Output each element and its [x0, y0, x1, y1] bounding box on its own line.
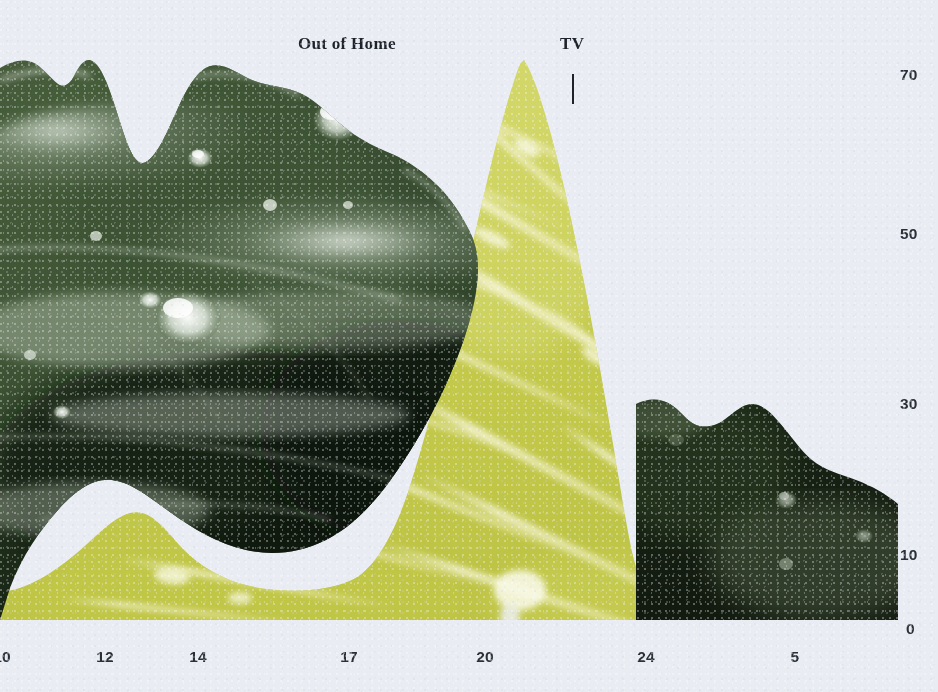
x-tick-label-5: 5: [786, 648, 804, 666]
chart-figure: 70 50 30 10 0 10 12 14 17 20 24 5 Out of…: [0, 0, 938, 692]
x-tick-label-20: 20: [473, 648, 497, 666]
x-tick-label-14: 14: [186, 648, 210, 666]
y-tick-label-0: 0: [906, 620, 915, 638]
y-tick-label-10: 10: [900, 546, 918, 564]
tv-leader-line: [572, 74, 574, 104]
area-chart-canvas: [0, 0, 938, 692]
y-tick-label-50: 50: [900, 225, 918, 243]
series-label-out-of-home: Out of Home: [298, 34, 396, 54]
x-tick-label-17: 17: [337, 648, 361, 666]
x-tick-label-12: 12: [93, 648, 117, 666]
right-margin-mask: [898, 0, 938, 692]
y-tick-label-30: 30: [900, 395, 918, 413]
x-tick-label-24: 24: [634, 648, 658, 666]
x-tick-label-10: 10: [0, 648, 14, 666]
y-tick-label-70: 70: [900, 66, 918, 84]
series-label-tv: TV: [560, 34, 584, 54]
